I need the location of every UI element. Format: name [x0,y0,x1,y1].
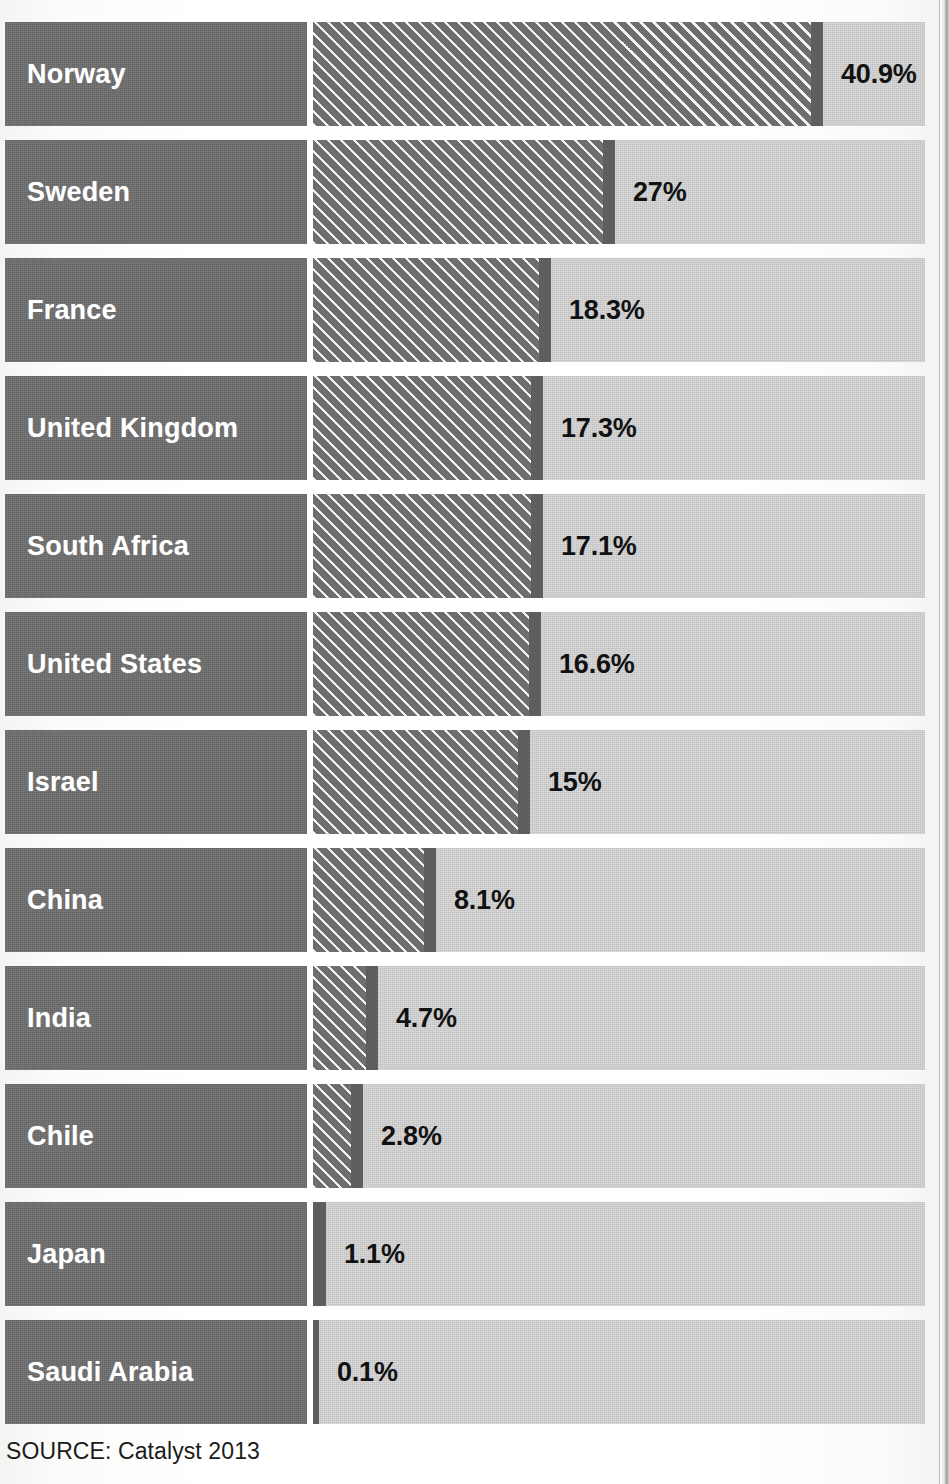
bar-track: 40.9% [313,22,925,126]
country-label-cell: Norway [5,22,307,126]
country-label-cell: United Kingdom [5,376,307,480]
country-label: Israel [27,767,99,798]
country-label: United States [27,649,202,680]
bar-track: 17.1% [313,494,925,598]
bar-end-cap [531,376,543,480]
bar-fill [313,494,543,598]
chart-row: United States16.6% [5,612,925,716]
bar-track: 2.8% [313,1084,925,1188]
country-label: Japan [27,1239,106,1270]
country-label: Saudi Arabia [27,1357,193,1388]
bar-track: 15% [313,730,925,834]
country-label-cell: South Africa [5,494,307,598]
bar-fill [313,22,823,126]
country-label: South Africa [27,531,189,562]
country-label-cell: China [5,848,307,952]
bar-value-label: 17.3% [561,413,637,444]
bar-track: 0.1% [313,1320,925,1424]
country-label-cell: Israel [5,730,307,834]
bar-end-cap [539,258,551,362]
country-label: India [27,1003,91,1034]
country-label-cell: India [5,966,307,1070]
bar-fill [313,1084,363,1188]
chart-row: Saudi Arabia0.1% [5,1320,925,1424]
source-note: SOURCE: Catalyst 2013 [6,1438,260,1465]
bar-end-cap [529,612,541,716]
country-label: China [27,885,103,916]
chart-row: Japan1.1% [5,1202,925,1306]
bar-end-cap [366,966,378,1070]
bar-value-label: 4.7% [396,1003,457,1034]
bar-track: 18.3% [313,258,925,362]
bar-end-cap [518,730,530,834]
chart-row: South Africa17.1% [5,494,925,598]
bar-fill [313,376,543,480]
bar-track: 27% [313,140,925,244]
horizontal-bar-chart: Norway40.9%Sweden27%France18.3%United Ki… [0,0,949,1484]
country-label-cell: Sweden [5,140,307,244]
country-label: France [27,295,117,326]
chart-row: Israel15% [5,730,925,834]
country-label-cell: United States [5,612,307,716]
bar-value-label: 16.6% [559,649,635,680]
chart-row: Sweden27% [5,140,925,244]
country-label-cell: France [5,258,307,362]
bar-end-cap [811,22,823,126]
bar-fill [313,966,378,1070]
bar-fill [313,612,541,716]
bar-track: 1.1% [313,1202,925,1306]
bar-end-cap [424,848,436,952]
bar-fill [313,1320,319,1424]
country-label-cell: Chile [5,1084,307,1188]
bar-track: 16.6% [313,612,925,716]
page-scan-edge [940,0,949,1484]
bar-end-cap [603,140,615,244]
country-label: United Kingdom [27,413,238,444]
bar-value-label: 8.1% [454,885,515,916]
bar-end-cap [313,1202,326,1306]
bar-track: 17.3% [313,376,925,480]
bar-fill [313,140,615,244]
country-label-cell: Japan [5,1202,307,1306]
bar-end-cap [313,1320,319,1424]
bar-fill [313,730,530,834]
bar-fill [313,848,436,952]
country-label: Sweden [27,177,130,208]
bar-track: 4.7% [313,966,925,1070]
bar-fill [313,1202,326,1306]
bar-value-label: 27% [633,177,686,208]
chart-row: Norway40.9% [5,22,925,126]
chart-row: France18.3% [5,258,925,362]
bar-fill [313,258,551,362]
chart-row: United Kingdom17.3% [5,376,925,480]
bar-value-label: 1.1% [344,1239,405,1270]
bar-end-cap [531,494,543,598]
bar-value-label: 15% [548,767,601,798]
bar-value-label: 18.3% [569,295,645,326]
chart-row: Chile2.8% [5,1084,925,1188]
chart-row: India4.7% [5,966,925,1070]
country-label: Chile [27,1121,94,1152]
chart-row: China8.1% [5,848,925,952]
bar-value-label: 40.9% [841,59,917,90]
country-label-cell: Saudi Arabia [5,1320,307,1424]
bar-end-cap [351,1084,363,1188]
country-label: Norway [27,59,126,90]
bar-track: 8.1% [313,848,925,952]
bar-value-label: 17.1% [561,531,637,562]
bar-value-label: 2.8% [381,1121,442,1152]
bar-value-label: 0.1% [337,1357,398,1388]
